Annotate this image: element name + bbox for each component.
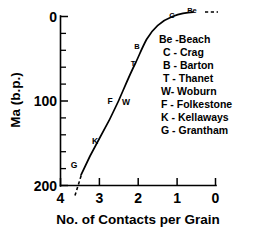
data-point-label-W: W — [122, 97, 131, 107]
x-tick-label-0: 0 — [212, 190, 220, 206]
data-point-label-K: K — [92, 136, 99, 146]
data-point-label-G: G — [71, 160, 78, 170]
x-tick-label-4: 4 — [57, 190, 65, 206]
legend-item-folkestone: F - Folkestone — [161, 98, 232, 110]
x-tick-label-2: 2 — [134, 190, 142, 206]
data-point-label-C: C — [169, 11, 175, 20]
data-point-label-B: B — [134, 42, 140, 51]
y-tick-label-100: 100 — [34, 93, 58, 109]
chart-figure: 0 100 200 4 3 2 1 0 No. of Contacts per … — [0, 0, 253, 237]
data-point-label-T: T — [131, 59, 136, 68]
legend-item-grantham: G - Grantham — [161, 124, 228, 136]
y-axis-ticks — [61, 17, 69, 186]
x-axis-ticks — [61, 178, 216, 186]
legend-item-woburn: W- Woburn — [161, 85, 217, 97]
y-tick-label-0: 0 — [49, 9, 57, 25]
y-axis-tick-labels: 0 100 200 — [34, 9, 58, 194]
x-tick-label-1: 1 — [173, 190, 181, 206]
legend-item-thanet: T - Thanet — [163, 72, 214, 84]
x-axis-tick-labels: 4 3 2 1 0 — [57, 190, 220, 206]
legend-item-beach: Be -Beach — [159, 33, 210, 45]
y-axis-title: Ma (b.p.) — [8, 72, 23, 128]
legend-item-crag: C - Crag — [163, 46, 204, 58]
legend-item-kellaways: K - Kellaways — [161, 111, 229, 123]
data-point-label-F: F — [107, 96, 112, 106]
data-point-label-Be: Be — [187, 6, 197, 15]
chart-canvas: 0 100 200 4 3 2 1 0 No. of Contacts per … — [0, 0, 253, 237]
legend-item-barton: B - Barton — [163, 59, 214, 71]
y-tick-label-200: 200 — [34, 178, 58, 194]
legend: Be -Beach C - Crag B - Barton T - Thanet… — [159, 33, 232, 136]
x-tick-label-3: 3 — [96, 190, 104, 206]
x-axis-title: No. of Contacts per Grain — [56, 212, 220, 227]
